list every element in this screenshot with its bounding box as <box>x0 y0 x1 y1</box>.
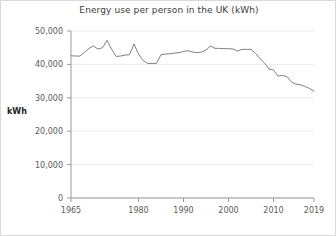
x-tick-label: 2000 <box>218 206 238 215</box>
x-tick-label: 2019 <box>304 206 324 215</box>
x-tick-label: 2010 <box>263 206 283 215</box>
data-series-group <box>71 40 314 91</box>
y-tick-label: 0 <box>58 194 63 203</box>
chart-screenshot: Energy use per person in the UK (kWh) kW… <box>0 0 336 236</box>
x-axis-ticks: 196519801990200020102019 <box>61 198 324 215</box>
x-tick-label: 1965 <box>61 206 81 215</box>
x-tick-label: 1990 <box>173 206 193 215</box>
data-line <box>71 40 314 91</box>
gridlines <box>71 31 314 198</box>
x-tick-label: 1980 <box>128 206 148 215</box>
y-tick-label: 30,000 <box>35 94 63 103</box>
y-tick-label: 50,000 <box>35 27 63 36</box>
y-tick-label: 40,000 <box>35 60 63 69</box>
y-tick-label: 10,000 <box>35 161 63 170</box>
y-axis-ticks: 010,00020,00030,00040,00050,000 <box>35 27 71 203</box>
y-tick-label: 20,000 <box>35 127 63 136</box>
line-chart-plot: 010,00020,00030,00040,00050,000 19651980… <box>1 1 336 236</box>
